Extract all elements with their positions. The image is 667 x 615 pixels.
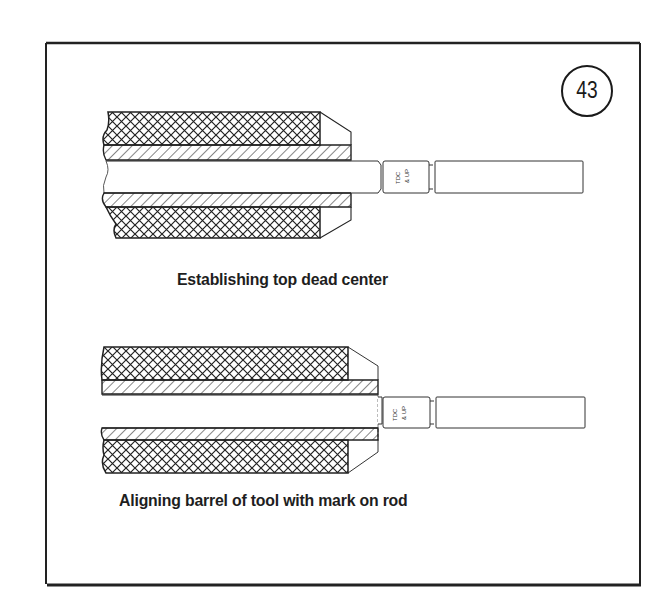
cylinder-wall-top: [101, 347, 348, 380]
figure-number: 43: [566, 76, 608, 104]
cylinder-wall-bottom: [106, 207, 320, 238]
panel-1-caption: Establishing top dead center: [177, 270, 388, 290]
liner-wall-bottom: [101, 428, 378, 440]
tdc-marking: TDC: [395, 171, 401, 184]
panel-2-cylinder-section: [101, 347, 378, 473]
panel-2-caption: Aligning barrel of tool with mark on rod: [119, 491, 408, 511]
tdc-marking: TDC: [392, 408, 398, 421]
panel-1-cylinder-section: [102, 112, 351, 238]
svg-text:& UP: & UP: [404, 169, 410, 183]
liner-wall-top: [103, 145, 351, 160]
panel-1-gauge-rod: TDC & UP: [351, 161, 583, 193]
svg-text:& UP: & UP: [401, 406, 407, 420]
liner-wall-bottom: [102, 193, 351, 207]
panel-2-gauge-rod: TDC & UP: [378, 397, 585, 428]
cylinder-wall-bottom: [102, 440, 348, 473]
gauge-rod: [436, 397, 585, 428]
gauge-rod: [435, 161, 583, 193]
cylinder-wall-top: [103, 112, 320, 145]
liner-wall-top: [102, 380, 378, 394]
